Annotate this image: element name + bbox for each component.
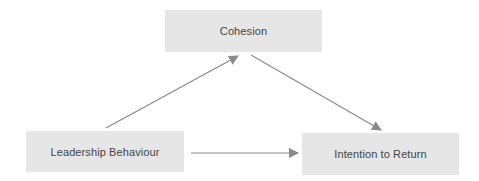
node-intention-to-return-label: Intention to Return — [334, 148, 426, 160]
node-intention-to-return: Intention to Return — [302, 133, 459, 175]
node-cohesion: Cohesion — [165, 10, 322, 52]
mediation-diagram: Cohesion Leadership Behaviour Intention … — [0, 0, 479, 181]
arrow-leadership-to-cohesion — [106, 56, 238, 128]
node-leadership-behaviour: Leadership Behaviour — [26, 131, 184, 172]
arrow-cohesion-to-intention — [251, 55, 381, 130]
node-cohesion-label: Cohesion — [220, 25, 267, 37]
node-leadership-behaviour-label: Leadership Behaviour — [50, 146, 159, 158]
